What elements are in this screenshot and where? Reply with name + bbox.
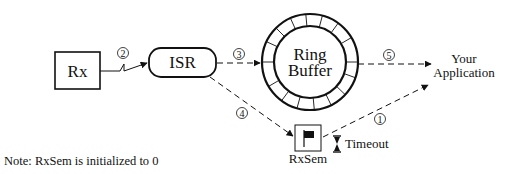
application-label-line2: Application — [433, 65, 495, 80]
ring-buffer-label-line2: Buffer — [288, 61, 332, 80]
rx-node: Rx — [55, 52, 100, 89]
rx-label: Rx — [68, 62, 88, 81]
ring-buffer-diagram: Rx 2 ISR 3 — [0, 0, 521, 174]
isr-label: ISR — [169, 53, 196, 72]
ring-buffer-node: Ring Buffer — [262, 14, 358, 110]
rxsem-label: RxSem — [289, 151, 327, 166]
step-1-label: 1 — [378, 114, 383, 125]
step-4-label: 4 — [240, 108, 245, 119]
step-2-label: 2 — [121, 48, 126, 59]
timeout-label: Timeout — [345, 136, 389, 151]
step-3-label: 3 — [237, 49, 242, 60]
application-label-line1: Your — [451, 51, 477, 66]
timeout-indicator: Timeout — [333, 136, 389, 152]
edge-ring-buffer-to-app: 5 — [358, 50, 431, 65]
rxsem-node: RxSem — [289, 125, 327, 166]
edge-rx-to-isr: 2 — [100, 48, 147, 72]
note-text: Note: RxSem is initialized to 0 — [4, 154, 159, 168]
step-5-label: 5 — [387, 50, 392, 61]
application-node: Your Application — [433, 51, 495, 80]
edge-isr-to-ring-buffer: 3 — [217, 49, 260, 64]
hourglass-icon — [333, 136, 341, 152]
isr-node: ISR — [149, 48, 216, 77]
